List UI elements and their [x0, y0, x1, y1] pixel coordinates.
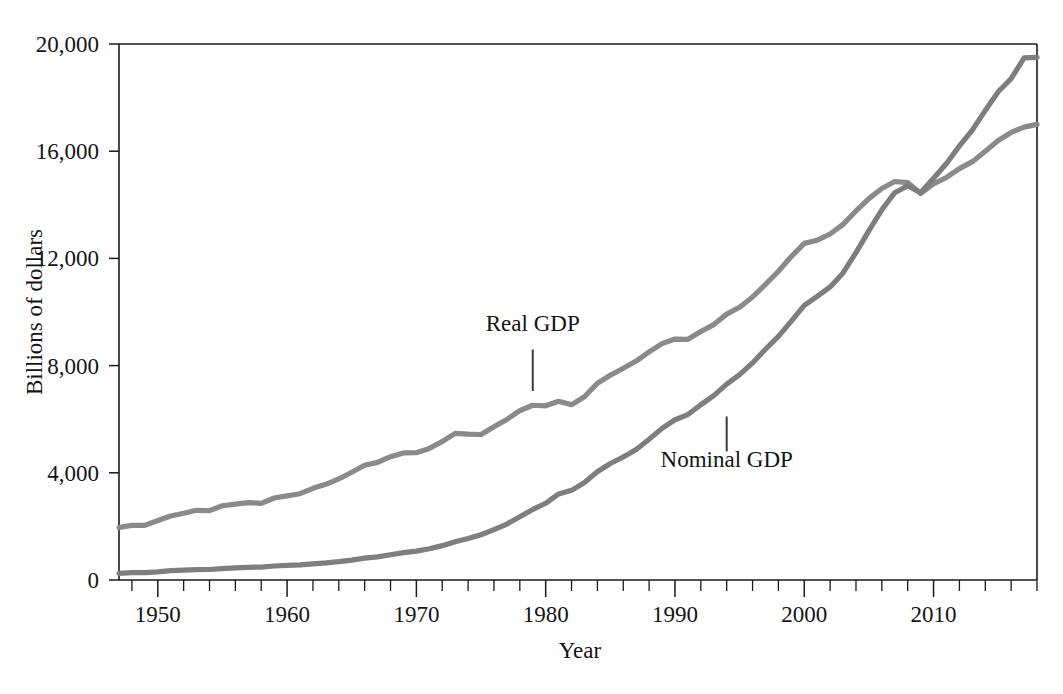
x-tick-label: 1960 — [264, 602, 310, 627]
y-tick-label: 16,000 — [36, 139, 99, 164]
y-tick-label: 8,000 — [47, 354, 99, 379]
x-tick-label: 1980 — [523, 602, 569, 627]
y-tick-label: 20,000 — [36, 32, 99, 57]
x-axis-title: Year — [559, 638, 602, 663]
y-axis-ticks: 04,0008,00012,00016,00020,000 — [36, 32, 119, 593]
x-tick-label: 2000 — [781, 602, 827, 627]
y-tick-label: 0 — [88, 568, 100, 593]
y-tick-label: 4,000 — [47, 461, 99, 486]
y-axis-title: Billions of dollars — [22, 229, 47, 395]
x-axis-ticks: 1950196019701980199020002010 — [132, 580, 1037, 627]
annotation-label-real-gdp: Real GDP — [486, 311, 580, 336]
x-tick-label: 1950 — [135, 602, 181, 627]
x-tick-label: 1970 — [393, 602, 439, 627]
x-tick-label: 2010 — [911, 602, 957, 627]
x-tick-label: 1990 — [652, 602, 698, 627]
gdp-line-chart: 04,0008,00012,00016,00020,000 1950196019… — [0, 0, 1063, 694]
chart-page: 04,0008,00012,00016,00020,000 1950196019… — [0, 0, 1063, 694]
